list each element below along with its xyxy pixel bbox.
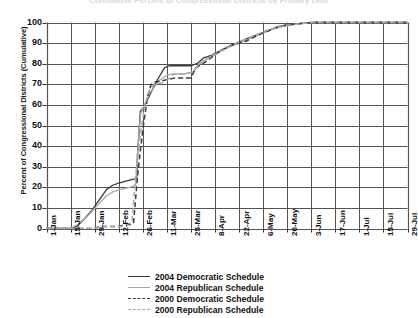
x-tick-label: 20-May <box>291 208 299 235</box>
x-tick-label: 8-Apr <box>218 215 226 236</box>
x-tick-label: 22-Apr <box>243 210 251 235</box>
x-tick-label: 29-Jul <box>411 212 418 235</box>
x-tick-label: 17-Jun <box>339 210 347 236</box>
legend-label: 2004 Republican Schedule <box>155 283 263 293</box>
x-tick-label: 6-May <box>267 213 275 236</box>
chart-legend: 2004 Democratic Schedule2004 Republican … <box>128 271 358 315</box>
x-tick-label: 1-Jul <box>363 217 371 236</box>
x-tick-label: 3-Jun <box>315 214 323 235</box>
x-tick-label: 29-Jan <box>98 210 106 235</box>
legend-item: 2000 Democratic Schedule <box>128 293 358 304</box>
legend-item: 2004 Democratic Schedule <box>128 271 358 282</box>
x-tick-label: 26-Feb <box>146 210 154 236</box>
legend-swatch-icon <box>128 305 150 314</box>
x-tick-label: 15-Jan <box>74 210 82 235</box>
legend-label: 2000 Republican Schedule <box>155 305 263 315</box>
x-tick-label: 12-Feb <box>122 210 130 236</box>
legend-label: 2004 Democratic Schedule <box>155 272 264 282</box>
x-tick-label: 1-Jan <box>50 215 58 236</box>
legend-item: 2004 Republican Schedule <box>128 282 358 293</box>
legend-swatch-icon <box>128 272 150 281</box>
legend-swatch-icon <box>128 294 150 303</box>
legend-label: 2000 Democratic Schedule <box>155 294 264 304</box>
chart-container: Cumulative Percent of Congressional Dist… <box>0 0 418 318</box>
x-tick-label: 25-Mar <box>194 210 202 236</box>
legend-item: 2000 Republican Schedule <box>128 304 358 315</box>
x-tick-label: 15-Jul <box>387 212 395 235</box>
x-tick-label: 11-Mar <box>170 210 178 235</box>
legend-swatch-icon <box>128 283 150 292</box>
